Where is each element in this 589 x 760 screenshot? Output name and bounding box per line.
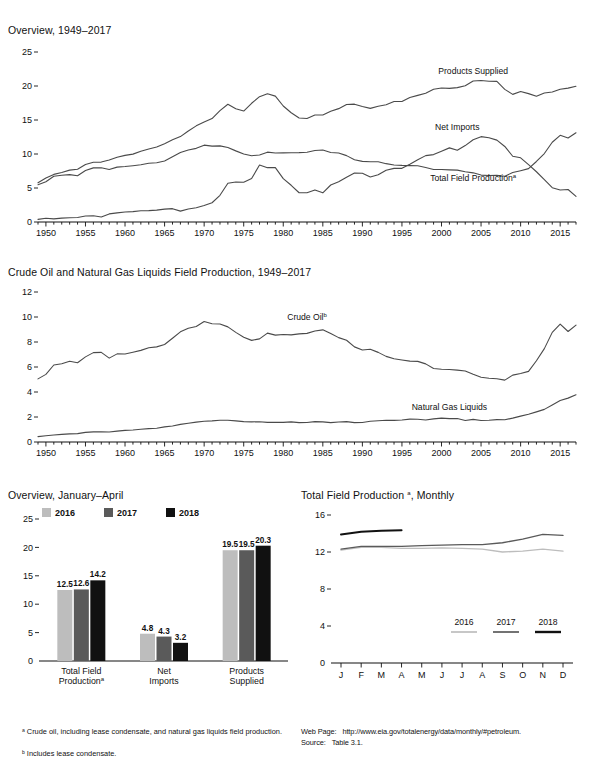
bar-2018-3 bbox=[256, 546, 271, 661]
x-tick-label-M: M bbox=[418, 670, 426, 680]
bar-2016-3 bbox=[223, 550, 238, 661]
bar-value-label: 3.2 bbox=[175, 633, 187, 642]
x-tick-label-A: A bbox=[479, 670, 485, 680]
y-tick-label: 0 bbox=[27, 437, 32, 447]
series-line-natural-gas-liquids bbox=[38, 395, 576, 437]
legend-label-2016: 2016 bbox=[55, 508, 75, 518]
category-label: Productiona bbox=[59, 676, 105, 686]
bar-2016-1 bbox=[57, 590, 72, 661]
x-tick-label: 2010 bbox=[511, 448, 531, 458]
y-tick-label: 6 bbox=[27, 362, 32, 372]
y-tick-label: 25 bbox=[23, 514, 33, 524]
footnote-a-text: ᵃ Crude oil, including lease condensate,… bbox=[22, 727, 282, 736]
y-tick-label: 25 bbox=[22, 47, 32, 57]
x-tick-label: 1965 bbox=[155, 228, 175, 238]
bar-value-label: 19.5 bbox=[222, 540, 238, 549]
legend-label-2018: 2018 bbox=[179, 508, 199, 518]
chart-crude-ngl-annual: 0246810121950195519601965197019751980198… bbox=[8, 278, 583, 468]
x-tick-label: 1970 bbox=[194, 448, 214, 458]
y-tick-label: 16 bbox=[315, 510, 325, 520]
x-tick-label: 2015 bbox=[550, 228, 570, 238]
chart-title-crude-ngl-annual: Crude Oil and Natural Gas Liquids Field … bbox=[8, 266, 583, 278]
series-annotation: Total Field Productiona bbox=[430, 173, 517, 183]
category-label: Supplied bbox=[230, 676, 264, 686]
x-tick-label: 1955 bbox=[75, 448, 95, 458]
y-tick-label: 10 bbox=[22, 312, 32, 322]
x-tick-label: 1985 bbox=[313, 228, 333, 238]
x-tick-label-S: S bbox=[499, 670, 505, 680]
series-annotation: Products Supplied bbox=[438, 66, 508, 76]
y-tick-label: 4 bbox=[27, 387, 32, 397]
y-tick-label: 4 bbox=[320, 621, 325, 631]
category-label: Imports bbox=[149, 676, 179, 686]
series-annotation: Natural Gas Liquids bbox=[412, 402, 487, 412]
bar-2018-1 bbox=[90, 580, 105, 661]
bar-2017-2 bbox=[157, 637, 172, 661]
chart-title-total-field-monthly: Total Field Production a, Monthly bbox=[301, 489, 586, 501]
y-tick-label: 10 bbox=[23, 599, 33, 609]
x-tick-label: 1990 bbox=[352, 448, 372, 458]
y-tick-label: 5 bbox=[27, 183, 32, 193]
x-tick-label: 1990 bbox=[352, 228, 372, 238]
x-tick-label: 2005 bbox=[471, 228, 491, 238]
footnote-a: ᵃ Crude oil, including lease condensate,… bbox=[8, 727, 290, 737]
x-tick-label-O: O bbox=[519, 670, 526, 680]
source-value: Table 3.1. bbox=[332, 738, 363, 747]
x-tick-label: 1975 bbox=[234, 228, 254, 238]
x-tick-label: 2000 bbox=[431, 228, 451, 238]
series-annotation: Crude Oilb bbox=[287, 312, 327, 322]
source-label: Source: bbox=[301, 738, 326, 747]
legend-swatch-2017 bbox=[104, 508, 113, 517]
x-tick-label: 1950 bbox=[36, 228, 56, 238]
legend-label-2016: 2016 bbox=[454, 617, 473, 627]
y-tick-label: 20 bbox=[23, 543, 33, 553]
x-tick-label: 1950 bbox=[36, 448, 56, 458]
y-tick-label: 8 bbox=[27, 337, 32, 347]
bar-2017-3 bbox=[239, 550, 254, 661]
x-tick-label: 1980 bbox=[273, 448, 293, 458]
y-tick-label: 0 bbox=[27, 217, 32, 227]
bar-2018-2 bbox=[173, 643, 188, 661]
panel-total-field-monthly: Total Field Production a, Monthly 048121… bbox=[301, 489, 586, 714]
web-page-url[interactable]: http://www.eia.gov/totalenergy/data/mont… bbox=[342, 727, 521, 736]
x-tick-label: 1985 bbox=[313, 448, 333, 458]
legend-label-2017: 2017 bbox=[496, 617, 515, 627]
series-line-2018 bbox=[341, 530, 402, 534]
bar-value-label: 4.8 bbox=[142, 624, 154, 633]
bar-2016-2 bbox=[140, 634, 155, 661]
x-tick-label: 2015 bbox=[550, 448, 570, 458]
y-tick-label: 12 bbox=[315, 547, 325, 557]
web-page-label: Web Page: bbox=[301, 727, 337, 736]
bar-value-label: 19.5 bbox=[239, 540, 255, 549]
x-tick-label: 1975 bbox=[234, 448, 254, 458]
legend-swatch-2016 bbox=[42, 508, 51, 517]
x-tick-label-A: A bbox=[399, 670, 405, 680]
chart-overview-jan-apr-bars: 051015202520162017201812.512.614.2Total … bbox=[8, 501, 293, 709]
y-tick-label: 5 bbox=[28, 628, 33, 638]
x-tick-label: 1960 bbox=[115, 448, 135, 458]
bar-2017-1 bbox=[74, 589, 89, 661]
x-tick-label-F: F bbox=[358, 670, 364, 680]
x-tick-label: 2010 bbox=[511, 228, 531, 238]
y-tick-label: 20 bbox=[22, 81, 32, 91]
y-tick-label: 0 bbox=[28, 656, 33, 666]
y-tick-label: 15 bbox=[23, 571, 33, 581]
x-tick-label: 1970 bbox=[194, 228, 214, 238]
category-label: Products bbox=[229, 666, 264, 676]
x-tick-label-J: J bbox=[440, 670, 445, 680]
x-tick-label: 1995 bbox=[392, 448, 412, 458]
legend-label-2017: 2017 bbox=[117, 508, 137, 518]
panel-overview-annual: Overview, 1949–2017 05101520251950195519… bbox=[8, 24, 583, 254]
x-tick-label-M: M bbox=[378, 670, 386, 680]
x-tick-label: 2000 bbox=[431, 448, 451, 458]
panel-overview-jan-apr: Overview, January–April 0510152025201620… bbox=[8, 489, 293, 714]
bar-value-label: 4.3 bbox=[158, 627, 170, 636]
series-annotation: Net Imports bbox=[435, 122, 479, 132]
web-page-line: Web Page: http://www.eia.gov/totalenergy… bbox=[301, 727, 589, 737]
footnote-b-text: ᵇ Includes lease condensate. bbox=[22, 749, 116, 758]
y-tick-label: 15 bbox=[22, 115, 32, 125]
chart-total-field-monthly: 0481216JFMAMJJASOND201620172018 bbox=[301, 501, 586, 709]
footnote-b: ᵇ Includes lease condensate. bbox=[8, 749, 290, 759]
x-tick-label: 1960 bbox=[115, 228, 135, 238]
legend-swatch-2018 bbox=[166, 508, 175, 517]
